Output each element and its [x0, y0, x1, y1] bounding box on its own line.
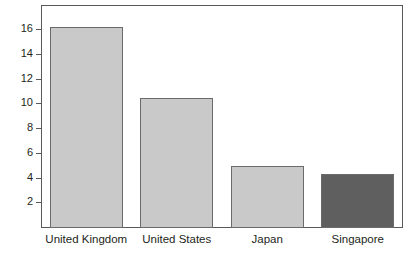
bar-chart-figure: 246810121416 United KingdomUnited States… — [0, 0, 411, 255]
x-axis-label-singapore: Singapore — [288, 232, 411, 246]
x-axis-category-labels: United KingdomUnited StatesJapanSingapor… — [0, 232, 411, 255]
bars-layer — [0, 0, 411, 255]
bar-united-kingdom — [50, 27, 123, 228]
bar-singapore — [321, 174, 394, 228]
bar-united-states — [140, 98, 213, 228]
bar-japan — [231, 166, 304, 228]
